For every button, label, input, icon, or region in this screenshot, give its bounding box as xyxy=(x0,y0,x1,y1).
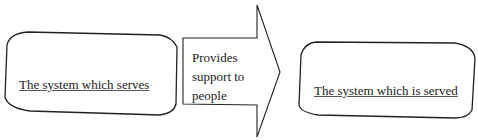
right-system-box xyxy=(299,42,475,118)
left-system-box xyxy=(5,32,177,115)
arrow-label-line-3: people xyxy=(192,86,262,105)
arrow-label-line-1: Provides xyxy=(192,48,262,67)
right-box-label: The system which is served xyxy=(314,82,458,99)
left-box-label: The system which serves xyxy=(19,76,149,93)
arrow-label-line-2: support to xyxy=(192,67,262,86)
arrow-label: Provides support to people xyxy=(192,48,262,105)
